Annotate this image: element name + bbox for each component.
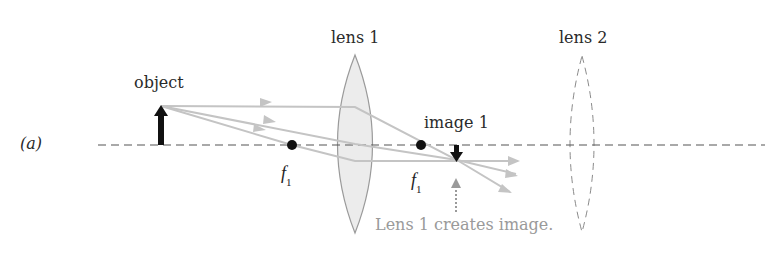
lens-2-label: lens 2: [559, 28, 607, 47]
two-lens-diagram: (a) lens 1 lens 2 object image 1 f1 f1 L…: [0, 0, 783, 257]
focal-label-left: f1: [281, 163, 292, 186]
focal-point-right: [416, 140, 426, 150]
image-1-label: image 1: [424, 113, 489, 132]
focal-label-right: f1: [411, 170, 422, 193]
lens-2-shape: [570, 56, 594, 232]
panel-label: (a): [20, 134, 42, 153]
focal-subscript: 1: [286, 176, 292, 188]
object-arrow: [154, 105, 168, 145]
object-label: object: [134, 73, 184, 92]
focal-subscript: 1: [416, 183, 422, 195]
caption-pointer-arrow: [451, 178, 461, 212]
lens-1-label: lens 1: [331, 28, 379, 47]
caption-text: Lens 1 creates image.: [375, 215, 553, 234]
focal-point-left: [287, 140, 297, 150]
